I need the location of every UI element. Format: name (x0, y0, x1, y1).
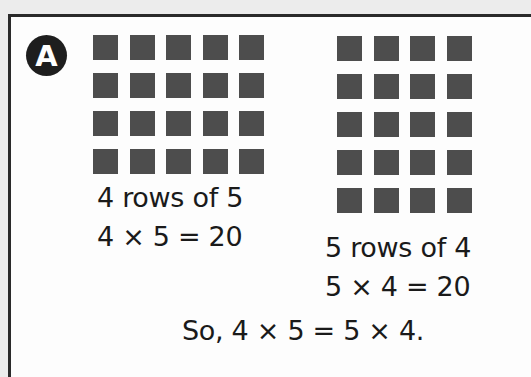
array-square (374, 112, 399, 137)
left-array-equation: 4 × 5 = 20 (97, 223, 242, 250)
array-square (239, 35, 264, 60)
array-square (410, 188, 435, 213)
array-square (239, 73, 264, 98)
array-square (410, 74, 435, 99)
array-square (130, 73, 155, 98)
array-square (447, 36, 472, 61)
right-array-equation: 5 × 4 = 20 (325, 273, 470, 300)
array-square (130, 149, 155, 174)
array-5-rows-of-4 (337, 36, 472, 213)
array-square (374, 74, 399, 99)
array-square (130, 35, 155, 60)
array-square (166, 35, 191, 60)
array-square (93, 111, 118, 136)
array-square (203, 35, 228, 60)
array-square (374, 150, 399, 175)
array-square (447, 188, 472, 213)
array-square (239, 149, 264, 174)
array-square (447, 150, 472, 175)
array-4-rows-of-5 (93, 35, 264, 174)
array-square (374, 188, 399, 213)
array-square (166, 73, 191, 98)
left-array-caption: 4 rows of 5 (97, 184, 243, 211)
array-square (93, 149, 118, 174)
badge-label: A (35, 42, 57, 71)
array-square (447, 74, 472, 99)
array-square (203, 73, 228, 98)
array-square (337, 188, 362, 213)
array-square (374, 36, 399, 61)
array-square (239, 111, 264, 136)
array-square (93, 35, 118, 60)
array-square (410, 150, 435, 175)
array-square (447, 112, 472, 137)
array-square (203, 149, 228, 174)
array-square (93, 73, 118, 98)
array-square (337, 36, 362, 61)
array-square (166, 111, 191, 136)
right-array-caption: 5 rows of 4 (325, 234, 471, 261)
array-square (166, 149, 191, 174)
array-square (130, 111, 155, 136)
array-square (337, 150, 362, 175)
array-square (410, 36, 435, 61)
conclusion-statement: So, 4 × 5 = 5 × 4. (182, 317, 424, 344)
array-square (337, 74, 362, 99)
array-square (203, 111, 228, 136)
array-square (337, 112, 362, 137)
example-badge: A (26, 35, 67, 76)
array-square (410, 112, 435, 137)
